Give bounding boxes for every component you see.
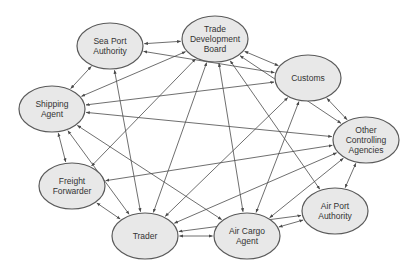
node-sea_port: Sea PortAuthority [77, 23, 143, 69]
node-label: Shipping [35, 99, 68, 109]
node-tdb: TradeDevelopmentBoard [182, 16, 248, 62]
edge-tdb-customs [245, 51, 279, 65]
edge-tdb-trader [153, 63, 206, 213]
edge-sea_port-trader [115, 70, 141, 211]
node-label: Freight [59, 176, 86, 186]
trade-network-diagram: Sea PortAuthorityTradeDevelopmentBoardCu… [0, 0, 416, 273]
node-label: Air Port [321, 201, 350, 211]
node-label: Other [355, 125, 376, 135]
node-label: Development [190, 34, 241, 44]
node-label: Authority [93, 46, 127, 56]
edge-sea_port-tdb [144, 41, 180, 43]
edge-tdb-freight [92, 59, 196, 166]
node-aircargo: Air CargoAgent [214, 213, 280, 259]
edge-customs-other [327, 98, 347, 119]
edge-other-freight [106, 145, 333, 180]
edge-customs-trader [165, 98, 287, 217]
node-airport: Air PortAuthority [302, 188, 368, 234]
edge-airport-aircargo [279, 220, 303, 227]
edge-shipping-sea_port [71, 67, 91, 89]
node-trader: Trader [112, 213, 178, 259]
node-label: Air Cargo [229, 226, 265, 236]
nodes-layer: Sea PortAuthorityTradeDevelopmentBoardCu… [19, 16, 399, 259]
node-label: Customs [291, 73, 325, 83]
edge-freight-shipping [58, 133, 65, 162]
node-label: Agent [41, 109, 64, 119]
node-label: Sea Port [93, 36, 127, 46]
node-freight: FreightForwarder [39, 163, 105, 209]
node-label: Trader [133, 231, 158, 241]
edge-customs-shipping [86, 82, 274, 105]
node-label: Board [204, 44, 227, 54]
node-other: OtherControllingAgencies [333, 117, 399, 163]
edge-trader-freight [97, 203, 120, 219]
node-customs: Customs [275, 55, 341, 101]
node-label: Agencies [349, 145, 384, 155]
node-label: Authority [318, 211, 352, 221]
node-label: Controlling [346, 135, 387, 145]
edge-other-airport [345, 163, 356, 187]
edge-tdb-aircargo [219, 63, 243, 211]
node-label: Trade [204, 24, 226, 34]
node-label: Agent [236, 236, 259, 246]
edge-customs-aircargo [256, 102, 299, 213]
node-shipping: ShippingAgent [19, 86, 85, 132]
node-label: Forwarder [53, 186, 92, 196]
